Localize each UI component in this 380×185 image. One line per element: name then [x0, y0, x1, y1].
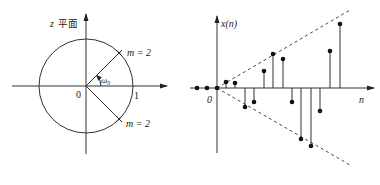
angle-label: ω₀ [101, 75, 110, 85]
stem-dot [299, 137, 304, 142]
stem-dot [328, 49, 333, 54]
sequence-plot: x(n) n 0 [190, 10, 374, 165]
pole-lower-label: m = 2 [126, 118, 150, 129]
stem-dot [262, 69, 267, 74]
stem-dot [243, 105, 248, 110]
stem-dot [309, 144, 314, 149]
stem-dot [271, 52, 276, 57]
stem-dot [338, 22, 343, 27]
n-axis-label: n [359, 94, 364, 105]
lower-envelope [217, 88, 350, 165]
z-plane-diagram: z 平面 0 1 ω₀ m = 2 m = 2 [12, 14, 167, 154]
stem-dot [290, 100, 295, 105]
xn-axis-label: x(n) [220, 18, 238, 30]
figure: z 平面 0 1 ω₀ m = 2 m = 2 x(n) n 0 [0, 0, 380, 185]
stem-dot [205, 86, 210, 91]
pole-vector-lower [86, 86, 119, 119]
z-plane-title-var: z [49, 18, 54, 29]
stem-dot [318, 109, 323, 114]
z-plane-title-text: 平面 [58, 18, 78, 29]
unit-label: 1 [134, 90, 139, 101]
stem-dot [224, 80, 229, 85]
stem-dot [281, 57, 286, 62]
pole-marker-upper-icon [116, 50, 122, 56]
stem-dot [252, 100, 257, 105]
origin-label-right: 0 [207, 94, 212, 105]
stem-dot [215, 86, 220, 91]
origin-label: 0 [76, 89, 81, 100]
pole-upper-label: m = 2 [127, 47, 151, 58]
pole-marker-lower-icon [116, 116, 122, 122]
stem-dot [195, 86, 200, 91]
stem-dot [233, 81, 238, 86]
